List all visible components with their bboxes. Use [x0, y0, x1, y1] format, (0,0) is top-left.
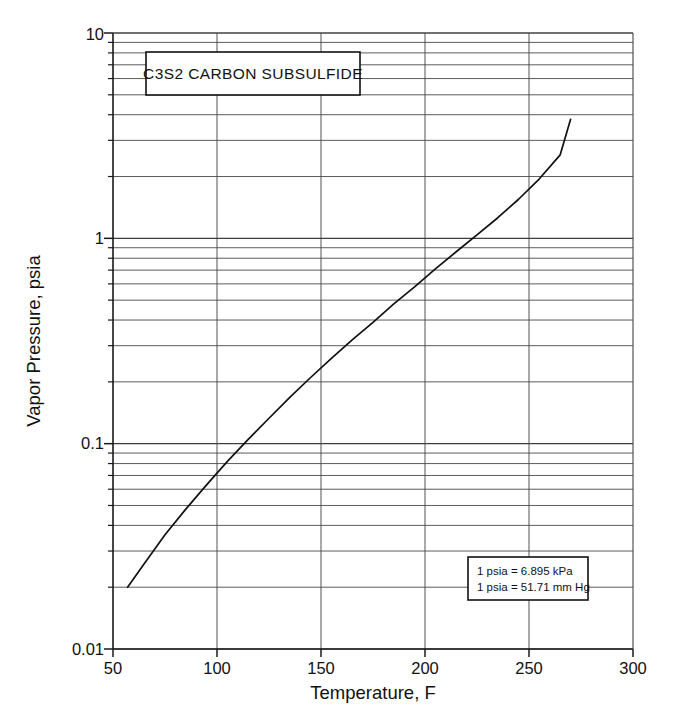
chart-background — [0, 0, 680, 724]
y-tick-label-3: 10 — [86, 25, 104, 43]
y-tick-label-2: 1 — [95, 229, 104, 247]
x-tick-label-1: 100 — [203, 659, 231, 677]
x-tick-label-4: 250 — [515, 659, 543, 677]
unit-conversion-line-2: 1 psia = 51.71 mm Hg — [477, 581, 590, 593]
x-axis-title: Temperature, F — [310, 682, 435, 703]
vapor-pressure-chart: 0.01 0.1 1 10 50 100 150 200 250 300 Tem… — [0, 0, 680, 724]
chart-title-label: C3S2 CARBON SUBSULFIDE — [143, 65, 363, 82]
unit-conversion-box — [468, 557, 588, 600]
x-tick-label-3: 200 — [411, 659, 439, 677]
y-axis-title: Vapor Pressure, psia — [23, 255, 44, 427]
y-tick-label-0: 0.01 — [72, 640, 104, 658]
chart-canvas: 0.01 0.1 1 10 50 100 150 200 250 300 Tem… — [0, 0, 680, 724]
unit-conversion-callout: 1 psia = 6.895 kPa 1 psia = 51.71 mm Hg — [468, 557, 590, 600]
chart-title-callout: C3S2 CARBON SUBSULFIDE — [143, 52, 363, 95]
x-tick-label-2: 150 — [307, 659, 335, 677]
y-tick-label-1: 0.1 — [81, 434, 104, 452]
x-tick-label-0: 50 — [104, 659, 122, 677]
x-tick-label-5: 300 — [619, 659, 647, 677]
unit-conversion-line-1: 1 psia = 6.895 kPa — [477, 565, 573, 577]
